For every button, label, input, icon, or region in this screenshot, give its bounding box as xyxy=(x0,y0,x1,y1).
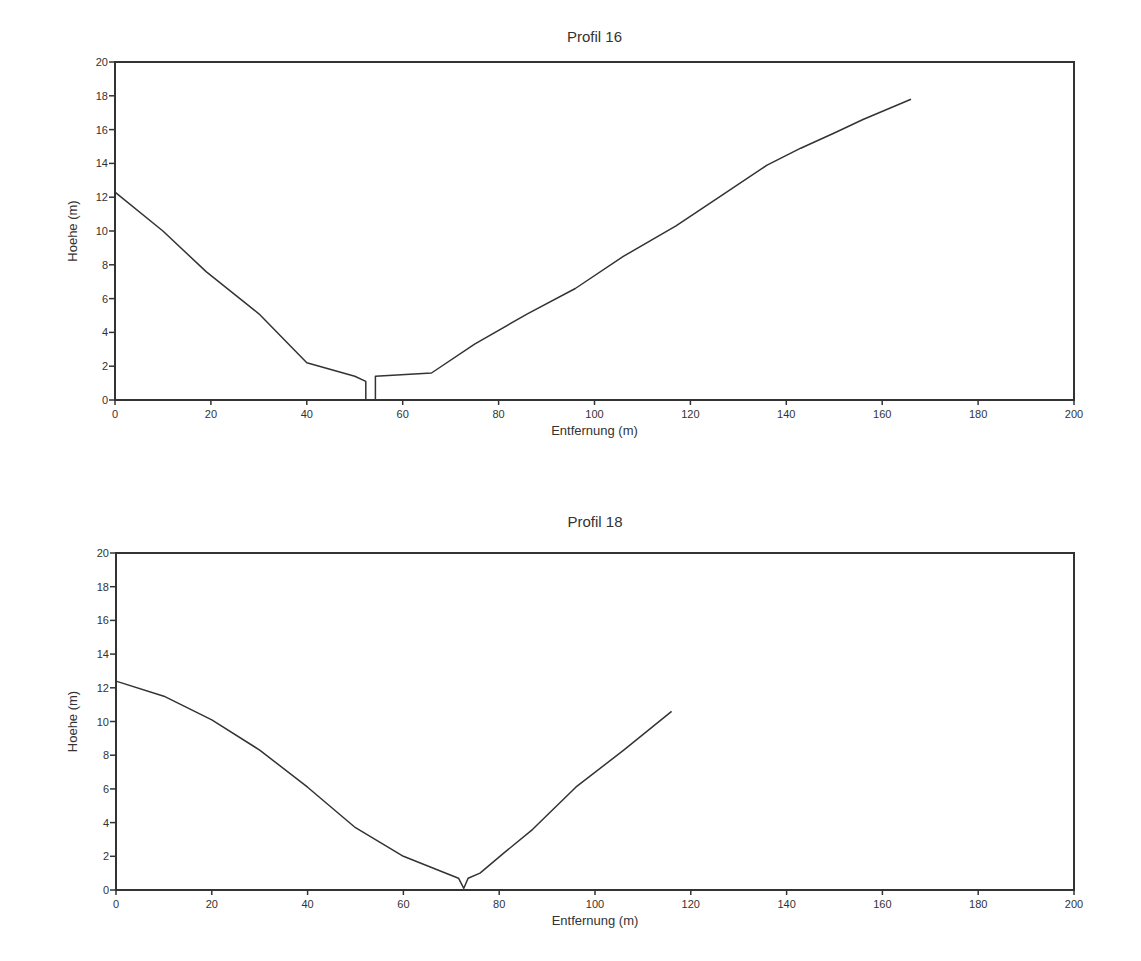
chart-svg: Profil 160246810121416182002040608010012… xyxy=(0,0,1141,480)
y-tick-label: 2 xyxy=(102,360,108,372)
x-axis-label: Entfernung (m) xyxy=(552,913,639,928)
y-tick-label: 16 xyxy=(96,124,108,136)
chart-title: Profil 16 xyxy=(567,28,622,45)
y-tick-label: 12 xyxy=(96,191,108,203)
profile-line xyxy=(116,681,672,888)
y-tick-label: 14 xyxy=(97,648,109,660)
y-axis-label: Hoehe (m) xyxy=(65,200,80,261)
chart-profil-16: Profil 160246810121416182002040608010012… xyxy=(0,0,1141,480)
x-tick-label: 60 xyxy=(397,898,409,910)
x-tick-label: 160 xyxy=(873,408,891,420)
x-tick-label: 80 xyxy=(493,898,505,910)
y-tick-label: 6 xyxy=(103,783,109,795)
x-tick-label: 160 xyxy=(873,898,891,910)
x-tick-label: 180 xyxy=(969,408,987,420)
x-tick-label: 140 xyxy=(777,898,795,910)
x-tick-label: 200 xyxy=(1065,898,1083,910)
y-tick-label: 0 xyxy=(103,884,109,896)
y-tick-label: 8 xyxy=(102,259,108,271)
y-tick-label: 8 xyxy=(103,749,109,761)
x-tick-label: 80 xyxy=(492,408,504,420)
x-tick-label: 100 xyxy=(586,898,604,910)
y-tick-label: 10 xyxy=(96,225,108,237)
x-tick-label: 60 xyxy=(397,408,409,420)
y-tick-label: 2 xyxy=(103,850,109,862)
x-tick-label: 120 xyxy=(681,408,699,420)
y-tick-label: 10 xyxy=(97,716,109,728)
x-tick-label: 0 xyxy=(113,898,119,910)
x-tick-label: 120 xyxy=(682,898,700,910)
y-tick-label: 4 xyxy=(103,817,109,829)
y-tick-label: 16 xyxy=(97,614,109,626)
y-tick-label: 18 xyxy=(97,581,109,593)
x-tick-label: 20 xyxy=(205,408,217,420)
x-tick-label: 100 xyxy=(585,408,603,420)
x-tick-label: 140 xyxy=(777,408,795,420)
x-tick-label: 40 xyxy=(301,898,313,910)
x-tick-label: 0 xyxy=(112,408,118,420)
y-tick-label: 0 xyxy=(102,394,108,406)
chart-svg: Profil 180246810121416182002040608010012… xyxy=(0,490,1141,961)
chart-title: Profil 18 xyxy=(567,513,622,530)
plot-frame xyxy=(115,62,1074,400)
y-tick-label: 12 xyxy=(97,682,109,694)
y-tick-label: 4 xyxy=(102,326,108,338)
plot-frame xyxy=(116,553,1074,890)
x-tick-label: 20 xyxy=(206,898,218,910)
profile-line xyxy=(115,99,911,400)
chart-profil-18: Profil 180246810121416182002040608010012… xyxy=(0,490,1141,961)
y-tick-label: 14 xyxy=(96,157,108,169)
x-tick-label: 40 xyxy=(301,408,313,420)
y-tick-label: 6 xyxy=(102,293,108,305)
y-tick-label: 20 xyxy=(97,547,109,559)
x-axis-label: Entfernung (m) xyxy=(551,423,638,438)
x-tick-label: 200 xyxy=(1065,408,1083,420)
x-tick-label: 180 xyxy=(969,898,987,910)
y-tick-label: 18 xyxy=(96,90,108,102)
y-axis-label: Hoehe (m) xyxy=(65,691,80,752)
y-tick-label: 20 xyxy=(96,56,108,68)
